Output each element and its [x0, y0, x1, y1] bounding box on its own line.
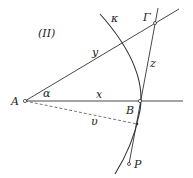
label-z: z	[149, 57, 156, 70]
point-P	[128, 163, 131, 166]
label-y: y	[91, 46, 99, 59]
line-v-dashed	[25, 101, 137, 124]
diagram-canvas: (II) A B Γ P κ α x y z υ	[0, 0, 193, 178]
geometry-diagram: (II) A B Γ P κ α x y z υ	[0, 0, 193, 178]
label-kappa: κ	[110, 12, 119, 25]
label-x: x	[96, 88, 103, 101]
point-Gamma	[154, 22, 157, 25]
label-B: B	[125, 104, 134, 117]
point-B	[138, 99, 141, 102]
label-Gamma: Γ	[142, 11, 151, 24]
label-A: A	[10, 95, 19, 108]
title-label: (II)	[38, 27, 55, 40]
label-alpha: α	[43, 87, 51, 100]
line-z	[129, 8, 158, 164]
arc-kappa	[100, 14, 141, 174]
point-A	[23, 99, 26, 102]
label-P: P	[133, 158, 142, 171]
label-v: υ	[91, 115, 98, 128]
point-on-arc	[136, 123, 139, 126]
